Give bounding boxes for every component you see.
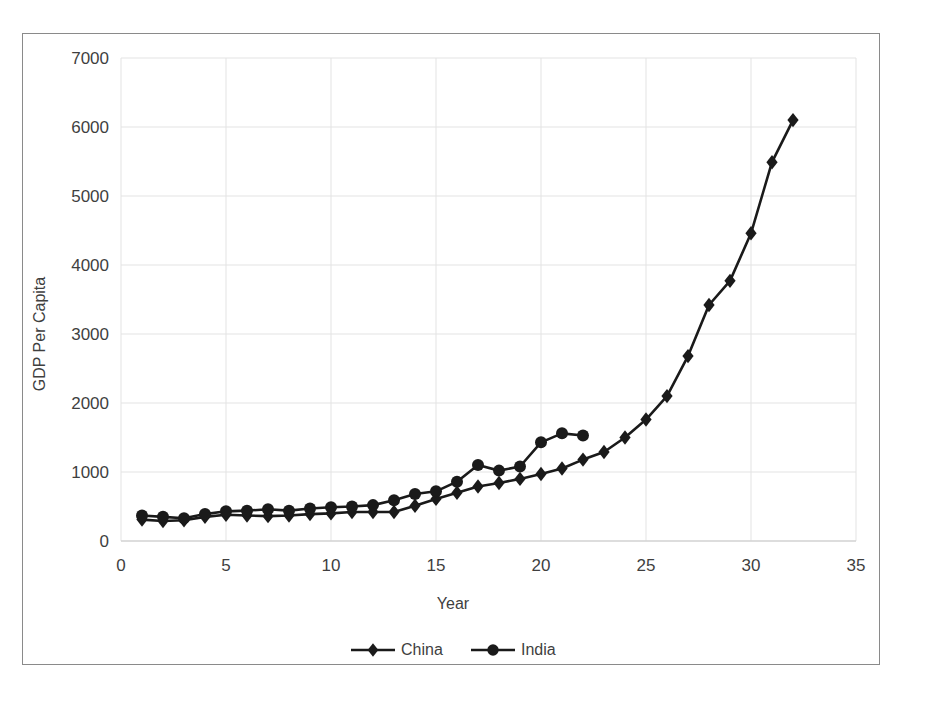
- data-point-marker-diamond: [535, 467, 546, 481]
- chart-legend: ChinaIndia: [351, 641, 556, 658]
- data-point-marker-circle: [220, 505, 232, 517]
- data-series-layer: [136, 113, 799, 528]
- y-axis-title: GDP Per Capita: [31, 277, 48, 392]
- x-axis-tick-label: 5: [221, 556, 230, 575]
- data-point-marker-circle: [514, 460, 526, 472]
- data-point-marker-diamond: [577, 452, 588, 466]
- chart-page: 01000200030004000500060007000 0510152025…: [0, 0, 928, 712]
- y-axis-tick-label: 4000: [71, 256, 109, 275]
- y-axis-tick-label: 0: [100, 532, 109, 551]
- data-point-marker-diamond: [368, 643, 379, 657]
- data-point-marker-circle: [472, 459, 484, 471]
- data-point-marker-diamond: [598, 445, 609, 459]
- x-axis-tick-label: 25: [637, 556, 656, 575]
- y-axis-tick-label: 5000: [71, 187, 109, 206]
- x-axis-tick-label: 35: [847, 556, 866, 575]
- data-point-marker-diamond: [388, 505, 399, 519]
- y-axis-tick-label: 3000: [71, 325, 109, 344]
- data-point-marker-diamond: [472, 479, 483, 493]
- data-point-marker-circle: [199, 508, 211, 520]
- x-axis-title: Year: [437, 595, 470, 612]
- data-point-marker-circle: [283, 505, 295, 517]
- data-point-marker-circle: [157, 511, 169, 523]
- data-point-marker-circle: [325, 501, 337, 513]
- data-point-marker-circle: [556, 427, 568, 439]
- data-point-marker-circle: [493, 465, 505, 477]
- y-axis-tick-label: 7000: [71, 49, 109, 68]
- x-axis-tick-label: 15: [427, 556, 446, 575]
- data-point-marker-circle: [304, 503, 316, 515]
- y-axis-tick-label: 2000: [71, 394, 109, 413]
- y-axis-tick-label: 1000: [71, 463, 109, 482]
- data-point-marker-circle: [535, 436, 547, 448]
- legend-label: China: [401, 641, 443, 658]
- series-line: [142, 120, 793, 521]
- data-point-marker-circle: [430, 485, 442, 497]
- x-axis-tick-label: 30: [742, 556, 761, 575]
- data-point-marker-diamond: [514, 472, 525, 486]
- data-point-marker-circle: [136, 509, 148, 521]
- data-point-marker-diamond: [493, 476, 504, 490]
- data-point-marker-circle: [577, 429, 589, 441]
- y-axis-tick-labels: 01000200030004000500060007000: [71, 49, 109, 551]
- data-point-marker-diamond: [409, 499, 420, 513]
- data-point-marker-circle: [178, 512, 190, 524]
- legend-item-india[interactable]: India: [471, 641, 556, 658]
- gdp-per-capita-line-chart: 01000200030004000500060007000 0510152025…: [23, 34, 879, 664]
- data-point-marker-circle: [451, 476, 463, 488]
- legend-item-china[interactable]: China: [351, 641, 443, 658]
- x-axis-tick-label: 20: [532, 556, 551, 575]
- data-point-marker-circle: [367, 499, 379, 511]
- data-point-marker-circle: [487, 644, 498, 655]
- x-axis-tick-label: 0: [116, 556, 125, 575]
- legend-label: India: [521, 641, 556, 658]
- data-point-marker-circle: [346, 501, 358, 513]
- y-axis-tick-label: 6000: [71, 118, 109, 137]
- x-axis-tick-label: 10: [322, 556, 341, 575]
- data-point-marker-circle: [241, 505, 253, 517]
- chart-frame: 01000200030004000500060007000 0510152025…: [22, 33, 880, 665]
- series-china: [136, 113, 798, 528]
- x-axis-tick-labels: 05101520253035: [116, 556, 865, 575]
- data-point-marker-diamond: [745, 226, 756, 240]
- data-point-marker-circle: [262, 503, 274, 515]
- data-point-marker-diamond: [556, 461, 567, 475]
- data-point-marker-circle: [409, 488, 421, 500]
- data-point-marker-circle: [388, 494, 400, 506]
